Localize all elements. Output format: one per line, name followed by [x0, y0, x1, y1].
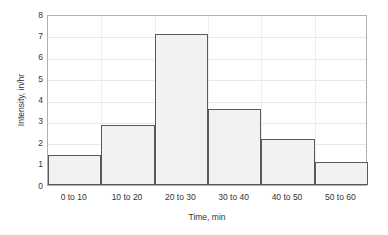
y-tick-label: 7	[24, 31, 43, 42]
bar	[48, 155, 101, 185]
x-tick-label: 0 to 10	[47, 190, 100, 204]
x-tick-label: 20 to 30	[154, 190, 207, 204]
x-tick-label: 40 to 50	[260, 190, 313, 204]
bar	[101, 125, 154, 185]
y-tick-label: 8	[24, 10, 43, 21]
y-tick-label: 4	[24, 95, 43, 106]
x-tick-label: 10 to 20	[100, 190, 153, 204]
bar	[155, 34, 208, 185]
bar	[208, 109, 261, 185]
bar-series	[48, 16, 366, 185]
x-tick-label: 30 to 40	[207, 190, 260, 204]
y-tick-label: 0	[24, 181, 43, 192]
bar	[261, 139, 314, 185]
x-axis-line	[48, 184, 366, 185]
y-tick-label: 6	[24, 52, 43, 63]
x-axis-tick-labels: 0 to 1010 to 2020 to 3030 to 4040 to 505…	[47, 190, 367, 204]
y-tick-label: 3	[24, 116, 43, 127]
x-axis-title: Time, min	[47, 210, 367, 224]
y-tick-label: 2	[24, 138, 43, 149]
x-tick-label: 50 to 60	[314, 190, 367, 204]
histogram-chart: Intensity, in/hr 012345678 0 to 1010 to …	[0, 0, 388, 235]
bar	[315, 162, 368, 185]
plot-area	[47, 15, 367, 186]
y-tick-label: 1	[24, 159, 43, 170]
y-tick-label: 5	[24, 74, 43, 85]
y-axis-tick-labels: 012345678	[24, 15, 43, 186]
